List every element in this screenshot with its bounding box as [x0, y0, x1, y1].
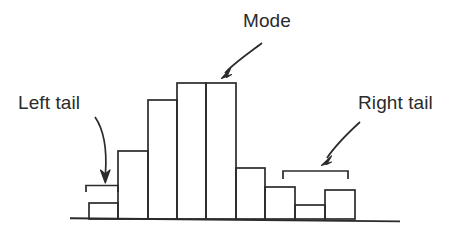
bar-6	[236, 168, 265, 219]
bar-4	[177, 83, 206, 219]
bar-5	[206, 83, 236, 219]
mode-arrow-icon	[222, 43, 263, 79]
bar-8	[295, 205, 325, 219]
bar-2	[118, 151, 148, 219]
mode-label: Mode	[243, 10, 291, 32]
bar-1	[89, 203, 118, 219]
bar-3	[148, 100, 177, 219]
bar-7	[265, 187, 295, 219]
histogram-bars	[89, 83, 355, 219]
left-tail-arrow-icon	[95, 117, 110, 183]
right-tail-arrow-icon	[322, 122, 361, 166]
bar-9	[325, 190, 355, 219]
left-tail-label: Left tail	[18, 92, 80, 114]
right-tail-bracket	[283, 171, 348, 179]
left-tail-bracket	[86, 186, 118, 193]
histogram-figure	[0, 0, 467, 238]
right-tail-label: Right tail	[358, 92, 433, 114]
